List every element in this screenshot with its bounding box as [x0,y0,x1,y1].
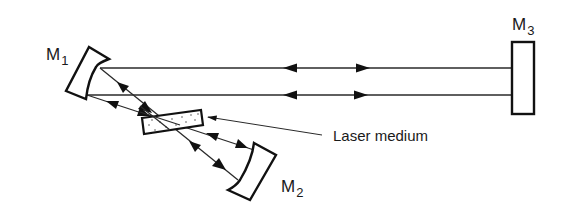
laser-cavity-diagram: Laser medium M1 M2 M3 [0,0,571,219]
beam-lower-horizontal [87,91,512,100]
arrow-icon [189,141,201,152]
arrow-icon [117,82,129,93]
arrow-icon [235,139,248,148]
laser-medium-label: Laser medium [333,127,428,144]
mirror-m1-label: M1 [46,45,68,68]
arrow-icon [206,133,219,141]
arrow-right-icon [356,64,370,73]
arrow-left-icon [283,64,297,73]
mirror-m2-label: M2 [281,177,303,200]
arrow-right-icon [354,91,368,100]
medium-leader [207,116,322,136]
arrow-left-icon [283,91,297,100]
mirror-m1 [66,47,109,99]
arrow-pointer-icon [207,116,217,122]
mirror-m3 [512,42,534,114]
mirror-m2 [228,143,276,200]
beam-upper-horizontal [100,64,512,73]
arrow-icon [106,101,119,109]
mirror-m3-label: M3 [512,15,534,38]
